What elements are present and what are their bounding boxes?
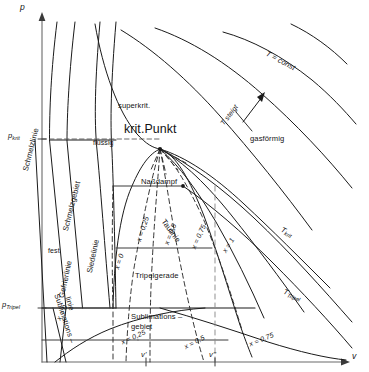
y-axis-label: p (20, 3, 25, 12)
dome-top-marker (181, 184, 185, 188)
y-tick-label-p-tripel: pTripel (2, 301, 20, 310)
critical-point-marker (158, 147, 162, 151)
saturation-dome-left (113, 149, 160, 308)
region-label-fluessig: flüssig (93, 139, 114, 146)
region-label-sublimationsgebiet-line1: Sublimations – (131, 313, 182, 321)
t-steigt-crossbar (236, 112, 252, 131)
t-steigt-arrow (236, 92, 265, 131)
isotherm-t-const-krit (160, 149, 352, 322)
solid-left-boundary (35, 140, 47, 362)
x-tick-label-v-prime: v' (141, 351, 146, 359)
isotherm-t-tripel (160, 308, 346, 360)
label-tripelgerade: Tripelgerade (135, 272, 179, 280)
label-kritischer-punkt: krit.Punkt (124, 123, 177, 136)
region-label-superkritisch: superkrit. (118, 102, 150, 110)
region-label-nassdampf: Naßdampf (141, 178, 177, 186)
isotherm-t-const-2 (291, 24, 347, 64)
region-label-gasfoermig: gasförmig (250, 135, 284, 143)
x-tick-label-v-double-prime: v'' (209, 351, 216, 359)
siedelinie-upper (95, 22, 110, 308)
region-label-fest: fest (48, 247, 60, 254)
y-tick-label-p-krit: pkrit (8, 132, 20, 141)
isotherm-fan-1 (160, 149, 330, 288)
y-axis-arrowhead (39, 12, 46, 21)
x0-dashed (112, 186, 113, 362)
x-axis-label: v (352, 352, 356, 361)
